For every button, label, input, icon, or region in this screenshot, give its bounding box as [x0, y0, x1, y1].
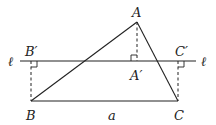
label-a: A — [131, 5, 141, 20]
label-b: B — [25, 108, 36, 123]
label-side-a: a — [108, 108, 116, 123]
right-angle-mark-b — [31, 61, 37, 67]
label-b-prime: B′ — [24, 44, 38, 59]
label-a-prime: A′ — [129, 68, 142, 83]
label-line-left: ℓ — [8, 54, 14, 69]
right-angle-mark-a — [131, 55, 137, 61]
label-c-prime: C′ — [175, 44, 188, 59]
right-angle-mark-c — [178, 61, 184, 67]
geometry-diagram: A B C A′ B′ C′ ℓ ℓ a — [0, 0, 216, 125]
diagram-canvas: A B C A′ B′ C′ ℓ ℓ a — [0, 0, 216, 125]
label-c: C — [174, 108, 184, 123]
label-line-right: ℓ — [201, 54, 207, 69]
